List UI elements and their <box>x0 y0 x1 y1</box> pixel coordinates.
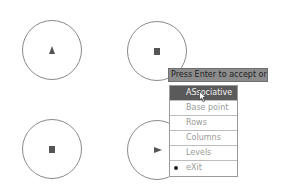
menu-item-label: Rows <box>186 118 207 127</box>
menu-item-levels[interactable]: Levels <box>170 146 237 161</box>
menu-item-label: Columns <box>186 133 221 142</box>
square-grip-icon[interactable] <box>49 146 55 153</box>
menu-item-label: Base point <box>186 103 228 112</box>
command-tooltip: Press Enter to accept or <box>168 68 268 82</box>
menu-item-exit[interactable]: eXit <box>170 161 237 176</box>
triangle-up-grip-icon[interactable] <box>49 46 55 54</box>
menu-item-base-point[interactable]: Base point <box>170 101 237 116</box>
menu-item-label: ASsociative <box>186 88 232 97</box>
square-grip-icon[interactable] <box>154 48 160 55</box>
menu-item-columns[interactable]: Columns <box>170 131 237 146</box>
menu-item-label: eXit <box>186 163 202 172</box>
triangle-right-grip-icon[interactable] <box>154 147 162 153</box>
mouse-cursor-icon <box>199 91 208 103</box>
bullet-icon <box>174 166 178 170</box>
menu-item-label: Levels <box>186 148 211 157</box>
drawing-canvas[interactable] <box>0 0 284 193</box>
menu-item-rows[interactable]: Rows <box>170 116 237 131</box>
